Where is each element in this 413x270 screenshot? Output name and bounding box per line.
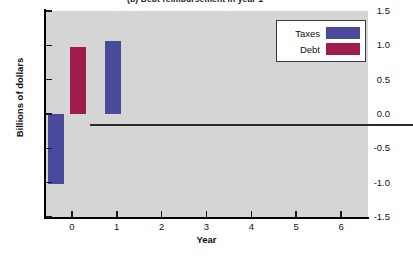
x-tick-mark	[295, 211, 297, 217]
y-tick-mark	[46, 216, 52, 218]
legend-item-taxes: Taxes	[282, 25, 360, 41]
chart-title: (b) Debt reimbursement in year 1	[0, 0, 390, 5]
y-axis-title: Billions of dollars	[14, 23, 25, 173]
y-tick-mark	[46, 113, 52, 115]
y-tick-mark	[46, 79, 52, 81]
y-tick-label: -1.0	[350, 178, 390, 188]
x-tick-label: 2	[149, 221, 175, 232]
y-tick-label: -0.5	[350, 143, 390, 153]
x-tick-mark	[161, 211, 163, 217]
x-axis-spine	[44, 217, 369, 219]
y-tick-label: 1.5	[350, 6, 390, 16]
y-tick-mark	[46, 148, 52, 150]
x-tick-mark	[251, 211, 253, 217]
x-tick-label: 4	[238, 221, 264, 232]
x-tick-label: 5	[283, 221, 309, 232]
x-tick-mark	[116, 211, 118, 217]
y-tick-label: 0.0	[350, 109, 390, 119]
legend-label: Debt	[300, 44, 320, 55]
bar-taxes-x1	[105, 41, 121, 114]
x-tick-label: 3	[194, 221, 220, 232]
y-tick-label: -1.5	[350, 212, 390, 222]
x-axis-title: Year	[45, 234, 368, 245]
chart-legend: TaxesDebt	[276, 20, 366, 62]
legend-color-swatch	[326, 27, 360, 39]
zero-reference-line	[90, 124, 413, 126]
y-tick-mark	[46, 45, 52, 47]
x-tick-label: 6	[328, 221, 354, 232]
y-tick-mark	[46, 10, 52, 12]
x-tick-mark	[340, 211, 342, 217]
x-tick-label: 0	[59, 221, 85, 232]
bar-debt-x0	[70, 47, 86, 114]
legend-color-swatch	[326, 43, 360, 55]
legend-label: Taxes	[295, 28, 320, 39]
legend-item-debt: Debt	[282, 41, 360, 57]
y-tick-label: 0.5	[350, 75, 390, 85]
x-tick-mark	[206, 211, 208, 217]
x-tick-label: 1	[104, 221, 130, 232]
x-tick-mark	[71, 211, 73, 217]
y-tick-mark	[46, 182, 52, 184]
